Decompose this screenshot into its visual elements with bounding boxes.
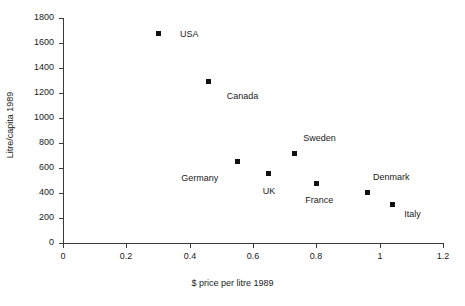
x-axis-tick-label: 0.2	[106, 251, 146, 261]
data-point-marker[interactable]	[365, 190, 370, 195]
x-axis-tick	[380, 244, 381, 248]
y-axis-tick-label: 600	[20, 163, 54, 172]
y-axis-tick	[59, 18, 63, 19]
data-point-marker[interactable]	[292, 151, 297, 156]
y-axis-title: Litre/capita 1989	[5, 70, 15, 180]
y-axis-tick	[59, 218, 63, 219]
x-axis-tick-label: 1	[360, 251, 400, 261]
y-axis-tick-label: 1800	[20, 13, 54, 22]
x-axis-tick-label: 0.4	[170, 251, 210, 261]
data-point-label: Italy	[404, 209, 421, 219]
x-axis-tick	[63, 244, 64, 248]
data-point-marker[interactable]	[314, 181, 319, 186]
y-axis-tick	[59, 143, 63, 144]
data-point-label: France	[305, 195, 333, 205]
y-axis-tick	[59, 193, 63, 194]
page-scan-artifact: . .. . .	[0, 0, 465, 5]
y-axis-line	[63, 18, 64, 244]
x-axis-tick	[126, 244, 127, 248]
x-axis-tick	[316, 244, 317, 248]
y-axis-tick-label: 800	[20, 138, 54, 147]
y-axis-tick-label: 1600	[20, 38, 54, 47]
x-axis-tick	[190, 244, 191, 248]
x-axis-tick	[253, 244, 254, 248]
scatter-chart-figure: . .. . . 0200400600800100012001400160018…	[0, 0, 465, 306]
data-point-label: UK	[263, 186, 276, 196]
data-point-marker[interactable]	[266, 171, 271, 176]
data-point-label: Sweden	[303, 133, 336, 143]
data-point-label: Canada	[227, 91, 259, 101]
y-axis-tick	[59, 118, 63, 119]
y-axis-tick-label: 200	[20, 213, 54, 222]
data-point-label: Germany	[181, 173, 218, 183]
data-point-marker[interactable]	[390, 202, 395, 207]
y-axis-tick	[59, 93, 63, 94]
y-axis-tick-label: 1200	[20, 88, 54, 97]
data-point-marker[interactable]	[206, 79, 211, 84]
y-axis-tick-label: 1000	[20, 113, 54, 122]
y-axis-tick-label: 0	[20, 238, 54, 247]
y-axis-tick-label: 400	[20, 188, 54, 197]
y-axis-tick	[59, 168, 63, 169]
data-point-label: USA	[180, 29, 199, 39]
x-axis-tick-label: 0.8	[296, 251, 336, 261]
data-point-marker[interactable]	[235, 159, 240, 164]
x-axis-tick	[443, 244, 444, 248]
y-axis-tick-label: 1400	[20, 63, 54, 72]
data-point-marker[interactable]	[156, 31, 161, 36]
data-point-label: Denmark	[373, 172, 410, 182]
y-axis-tick	[59, 68, 63, 69]
x-axis-tick-label: 0.6	[233, 251, 273, 261]
x-axis-tick-label: 1.2	[423, 251, 463, 261]
y-axis-tick	[59, 43, 63, 44]
x-axis-title: $ price per litre 1989	[0, 278, 465, 288]
x-axis-tick-label: 0	[43, 251, 83, 261]
